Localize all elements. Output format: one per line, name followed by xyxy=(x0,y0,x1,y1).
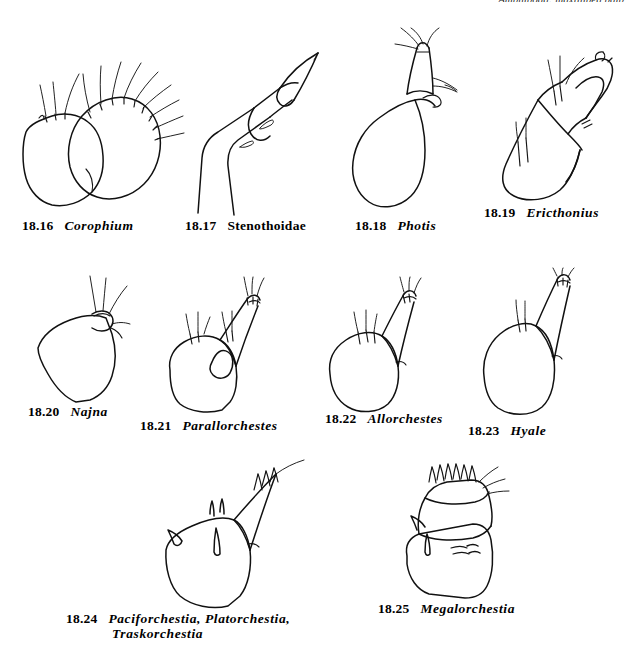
figure-number-18-23: 18.23 xyxy=(468,423,499,438)
taxon-name-paciforchestia-line1: Paciforchestia, Platorchestia, xyxy=(108,611,290,626)
figure-number-18-24: 18.24 xyxy=(66,611,97,626)
caption-18-24: 18.24Paciforchestia, Platorchestia,Trask… xyxy=(66,612,290,641)
drawing-corophium xyxy=(8,52,188,217)
caption-18-17: 18.17Stenothoidae xyxy=(185,219,306,233)
figure-number-18-16: 18.16 xyxy=(22,218,53,233)
caption-18-19: 18.19Ericthonius xyxy=(484,206,599,220)
caption-18-25: 18.25Megalorchestia xyxy=(378,602,515,616)
drawing-najna xyxy=(32,272,157,412)
figure-18-23-hyale xyxy=(468,268,608,418)
taxon-name-megalorchestia: Megalorchestia xyxy=(420,601,515,616)
taxon-name-allorchestes: Allorchestes xyxy=(367,411,442,426)
drawing-megalorchestia xyxy=(395,460,535,610)
taxon-name-ericthonius: Ericthonius xyxy=(526,205,599,220)
running-head: Amphipoda: maxilliped palp xyxy=(0,0,634,2)
drawing-parallorchestes xyxy=(158,276,293,416)
drawing-ericthonius xyxy=(472,38,627,213)
figure-18-18-photis xyxy=(345,28,470,213)
taxon-name-parallorchestes: Parallorchestes xyxy=(182,418,277,433)
caption-18-18: 18.18Photis xyxy=(355,219,436,233)
figure-number-18-18: 18.18 xyxy=(355,218,386,233)
figure-18-24-paciforchestia-group xyxy=(152,460,312,615)
figure-number-18-21: 18.21 xyxy=(140,418,171,433)
figure-plate: Amphipoda: maxilliped palp xyxy=(0,0,634,646)
figure-18-19-ericthonius xyxy=(472,38,627,213)
drawing-allorchestes xyxy=(322,276,452,416)
taxon-name-hyale: Hyale xyxy=(510,423,546,438)
taxon-name-stenothoidae: Stenothoidae xyxy=(227,218,306,233)
figure-number-18-25: 18.25 xyxy=(378,601,409,616)
caption-18-20: 18.20Najna xyxy=(28,405,108,419)
taxon-name-photis: Photis xyxy=(397,218,436,233)
figure-18-22-allorchestes xyxy=(322,276,452,416)
drawing-stenothoidae xyxy=(196,50,331,215)
drawing-hyale xyxy=(468,268,608,418)
caption-18-23: 18.23Hyale xyxy=(468,424,546,438)
caption-18-21: 18.21Parallorchestes xyxy=(140,419,278,433)
taxon-name-traskorchestia-line2: Traskorchestia xyxy=(112,627,290,641)
drawing-paciforchestia-group xyxy=(152,460,312,615)
figure-18-20-najna xyxy=(32,272,157,412)
caption-18-16: 18.16Corophium xyxy=(22,219,134,233)
figure-number-18-22: 18.22 xyxy=(325,411,356,426)
figure-number-18-19: 18.19 xyxy=(484,205,515,220)
caption-18-22: 18.22Allorchestes xyxy=(325,412,443,426)
figure-18-16-corophium xyxy=(8,52,188,217)
figure-18-21-parallorchestes xyxy=(158,276,293,416)
taxon-name-najna: Najna xyxy=(70,404,108,419)
figure-number-18-20: 18.20 xyxy=(28,404,59,419)
taxon-name-corophium: Corophium xyxy=(64,218,133,233)
figure-number-18-17: 18.17 xyxy=(185,218,216,233)
figure-18-25-megalorchestia xyxy=(395,460,535,610)
figure-18-17-stenothoidae xyxy=(196,50,331,215)
drawing-photis xyxy=(345,28,470,213)
